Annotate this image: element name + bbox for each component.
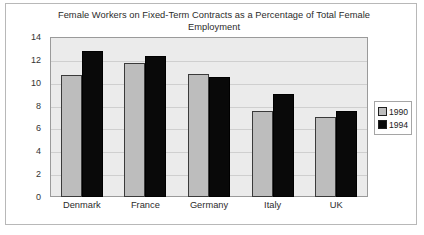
- y-axis: 14121086420: [6, 37, 46, 197]
- y-axis-tick-label: 0: [36, 192, 41, 202]
- bar-germany-1990: [188, 74, 209, 197]
- chart-legend: 19901994: [374, 101, 412, 135]
- y-axis-tick-label: 14: [31, 32, 41, 42]
- y-axis-tick-label: 10: [31, 78, 41, 88]
- x-axis-tick-label: Germany: [190, 200, 228, 210]
- bar-group: [241, 37, 305, 197]
- x-axis-tick-label: Denmark: [63, 200, 101, 210]
- bar-italy-1994: [273, 94, 294, 197]
- x-axis: DenmarkFranceGermanyItalyUK: [50, 200, 368, 216]
- bar-uk-1990: [315, 117, 336, 197]
- legend-item-label: 1990: [389, 107, 408, 117]
- bar-germany-1994: [209, 77, 230, 197]
- legend-item[interactable]: 1994: [378, 118, 409, 131]
- bar-denmark-1994: [82, 51, 103, 197]
- bar-group: [304, 37, 368, 197]
- x-axis-tick-label: Italy: [264, 200, 281, 210]
- bar-group: [50, 37, 114, 197]
- y-axis-tick-label: 12: [31, 55, 41, 65]
- bar-group: [177, 37, 241, 197]
- bar-italy-1990: [252, 111, 273, 197]
- x-axis-tick-label: France: [131, 200, 160, 210]
- legend-item-label: 1994: [389, 120, 408, 130]
- x-axis-tick-label: UK: [330, 200, 343, 210]
- legend-swatch-1994-icon: [378, 120, 387, 129]
- bar-france-1990: [124, 63, 145, 197]
- bar-denmark-1990: [61, 75, 82, 197]
- y-axis-tick-label: 6: [36, 123, 41, 133]
- bars-layer: [50, 37, 368, 197]
- bar-france-1994: [145, 56, 166, 197]
- legend-swatch-1990-icon: [378, 107, 387, 116]
- y-axis-tick-label: 8: [36, 101, 41, 111]
- y-axis-tick-label: 4: [36, 146, 41, 156]
- bar-uk-1994: [336, 111, 357, 197]
- chart-container: Female Workers on Fixed-Term Contracts a…: [5, 3, 417, 225]
- chart-title: Female Workers on Fixed-Term Contracts a…: [42, 10, 386, 33]
- legend-item[interactable]: 1990: [378, 105, 409, 118]
- bar-group: [114, 37, 178, 197]
- y-axis-tick-label: 2: [36, 169, 41, 179]
